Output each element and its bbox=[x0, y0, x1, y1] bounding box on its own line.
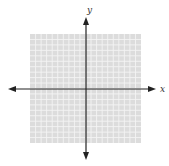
y-axis-down-arrow-icon bbox=[83, 152, 89, 160]
y-axis-up-arrow-icon bbox=[83, 17, 89, 25]
x-axis-left-arrow-icon bbox=[8, 86, 16, 92]
x-axis-label: x bbox=[160, 84, 165, 94]
x-axis-right-arrow-icon bbox=[148, 86, 156, 92]
coordinate-plane: x y bbox=[0, 0, 169, 166]
y-axis-label: y bbox=[86, 5, 93, 15]
